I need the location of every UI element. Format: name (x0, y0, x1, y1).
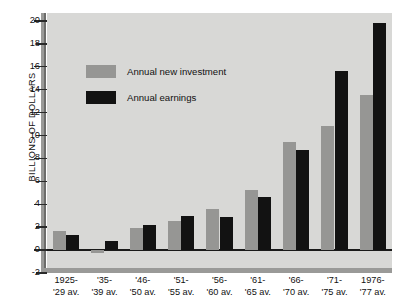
y-tick-label-18: 18 (6, 39, 40, 48)
bar-earnings-4 (220, 217, 233, 250)
y-tick-label-16: 16 (6, 62, 40, 71)
y-tick-label-2: 2 (6, 222, 40, 231)
x-axis-label-6: '66-'70 av. (276, 275, 316, 298)
legend-label-earnings: Annual earnings (127, 92, 196, 103)
x-axis-label-1: '35-'39 av. (85, 275, 125, 298)
bar-chart: BILLIONS OF DOLLARS 20181614121086420-2 … (0, 0, 403, 302)
y-tick-label-4: 4 (6, 199, 40, 208)
x-axis-spine (41, 268, 392, 273)
x-axis-label-2: '46-'50 av. (123, 275, 163, 298)
bar-earnings-5 (258, 197, 271, 250)
y-tick-label--2: -2 (6, 268, 40, 277)
bar-earnings-6 (296, 150, 309, 250)
bar-investment-5 (245, 190, 258, 250)
bar-investment-2 (130, 228, 143, 250)
bar-investment-8 (360, 95, 373, 250)
y-tick-label-12: 12 (6, 108, 40, 117)
x-axis-label-4: '56-'60 av. (200, 275, 240, 298)
bar-earnings-0 (66, 235, 79, 250)
bar-earnings-2 (143, 225, 156, 250)
x-axis-label-5: '61-'65 av. (238, 275, 278, 298)
bar-investment-7 (321, 126, 334, 250)
bar-earnings-1 (105, 241, 118, 250)
bar-investment-3 (168, 221, 181, 250)
bar-investment-1 (91, 250, 104, 253)
bar-investment-6 (283, 142, 296, 250)
bar-investment-0 (53, 231, 66, 250)
y-tick-label-0: 0 (6, 245, 40, 254)
y-tick-label-14: 14 (6, 85, 40, 94)
x-axis-label-0: 1925-'29 av. (46, 275, 86, 298)
bar-earnings-3 (181, 216, 194, 250)
x-axis-label-7: '71-'75 av. (315, 275, 355, 298)
y-axis-spine-inner (44, 13, 46, 273)
legend-swatch-earnings (86, 91, 116, 104)
bar-earnings-8 (373, 23, 386, 250)
y-tick-label-6: 6 (6, 176, 40, 185)
bar-investment-4 (206, 209, 219, 250)
bar-earnings-7 (335, 71, 348, 250)
legend-item-investment: Annual new investment (86, 64, 226, 78)
legend-swatch-investment (86, 65, 116, 78)
y-tick-label-20: 20 (6, 16, 40, 25)
x-axis-label-3: '51-'55 av. (161, 275, 201, 298)
legend-label-investment: Annual new investment (127, 66, 226, 77)
x-axis-label-8: 1976-'77 av. (353, 275, 393, 298)
legend: Annual new investment Annual earnings (86, 64, 226, 116)
y-tick-label-8: 8 (6, 153, 40, 162)
y-tick-label-10: 10 (6, 131, 40, 140)
legend-item-earnings: Annual earnings (86, 90, 226, 104)
